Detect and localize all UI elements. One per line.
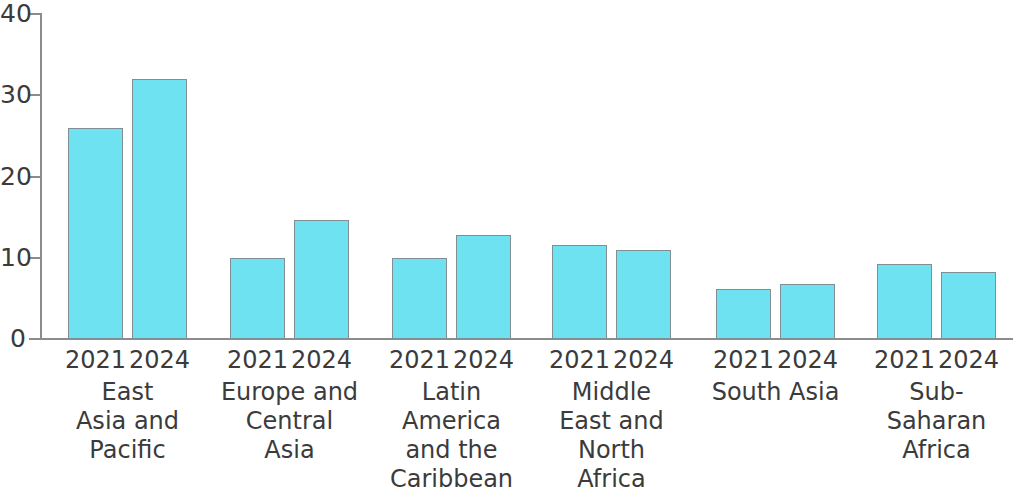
year-label: 2024 [608,346,679,374]
bar [68,128,123,339]
group-label: East Asia and Pacific [38,378,218,465]
bar [616,250,671,339]
bar [552,245,607,339]
bar [392,258,447,339]
year-label: 2021 [222,346,293,374]
year-label: 2021 [869,346,940,374]
bar [780,284,835,339]
y-tick-label-30: 30 [0,82,26,107]
bar [716,289,771,339]
bar [132,79,187,339]
group-label: South Asia [686,378,866,407]
bar-chart: 010203040 202120242021202420212024202120… [0,0,1013,497]
group-label: Middle East and North Africa [522,378,702,494]
year-label: 2021 [708,346,779,374]
y-tick-label-20: 20 [0,164,26,189]
year-label: 2024 [286,346,357,374]
year-label: 2021 [544,346,615,374]
year-label: 2024 [772,346,843,374]
bar [877,264,932,339]
year-label: 2024 [124,346,195,374]
year-label: 2024 [448,346,519,374]
group-label: Europe and Central Asia [200,378,380,465]
bar [456,235,511,339]
group-label: Latin America and the Caribbean [362,378,542,494]
bar [941,272,996,339]
year-label: 2021 [384,346,455,374]
bar [230,258,285,339]
y-tick-label-0: 0 [0,326,26,351]
bar [294,220,349,339]
y-tick-label-10: 10 [0,245,26,270]
y-tick-0 [29,338,41,340]
y-tick-label-40: 40 [0,1,26,26]
year-label: 2021 [60,346,131,374]
group-label: Sub- Saharan Africa [847,378,1013,465]
year-label: 2024 [933,346,1004,374]
